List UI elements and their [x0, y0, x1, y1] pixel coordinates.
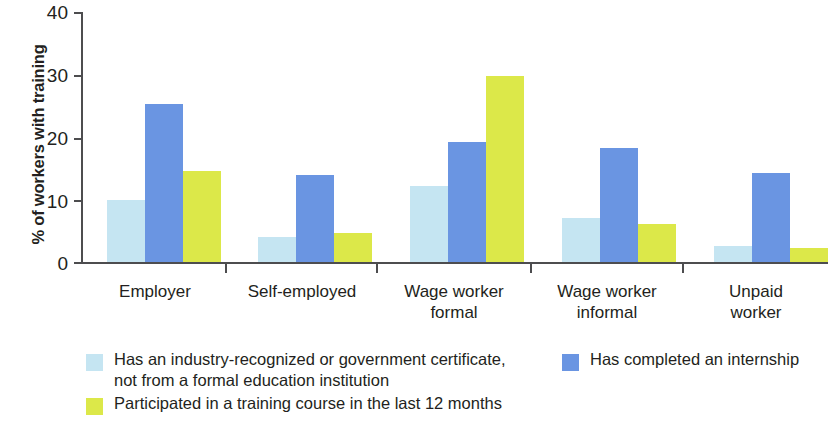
- chart-figure: % of workers with training 40 30 20 10 0…: [0, 0, 828, 429]
- chart-legend: Has an industry-recognized or government…: [0, 345, 828, 429]
- bar-2-series-1: [258, 237, 296, 262]
- legend-label-internship: Has completed an internship: [590, 349, 828, 370]
- x-category-label-line2: informal: [534, 302, 680, 323]
- x-category-label-unpaid-worker: Unpaid worker: [686, 281, 826, 323]
- x-category-label-wage-worker-formal: Wage worker formal: [380, 281, 528, 323]
- x-category-label-line1: Self-employed: [229, 281, 375, 302]
- x-category-label-line1: Wage worker: [534, 281, 680, 302]
- legend-swatch-training-course: [86, 398, 103, 415]
- x-category-label-employer: Employer: [85, 281, 225, 302]
- x-category-label-wage-worker-informal: Wage worker informal: [534, 281, 680, 323]
- bar-1-series-3: [183, 171, 221, 262]
- x-category-label-line2: worker: [686, 302, 826, 323]
- bar-2-series-3: [334, 233, 372, 262]
- bar-2-series-2: [296, 175, 334, 263]
- bar-5-series-2: [752, 173, 790, 262]
- x-category-label-line1: Unpaid: [686, 281, 826, 302]
- x-category-label-line2: formal: [380, 302, 528, 323]
- bar-5-series-1: [714, 246, 752, 262]
- legend-label-certificate: Has an industry-recognized or government…: [114, 349, 564, 390]
- bar-3-series-2: [448, 142, 486, 262]
- x-category-label-line1: Wage worker: [380, 281, 528, 302]
- bar-4-series-2: [600, 148, 638, 262]
- bar-1-series-2: [145, 104, 183, 262]
- bar-4-series-3: [638, 224, 676, 262]
- x-category-label-self-employed: Self-employed: [229, 281, 375, 302]
- bar-1-series-1: [107, 200, 145, 263]
- legend-swatch-certificate: [86, 354, 103, 371]
- bar-5-series-3: [790, 248, 828, 262]
- legend-label-training-course: Participated in a training course in the…: [114, 393, 634, 414]
- bar-3-series-3: [486, 76, 524, 262]
- bar-4-series-1: [562, 218, 600, 262]
- x-category-label-line1: Employer: [85, 281, 225, 302]
- bar-3-series-1: [410, 186, 448, 262]
- legend-swatch-internship: [562, 354, 579, 371]
